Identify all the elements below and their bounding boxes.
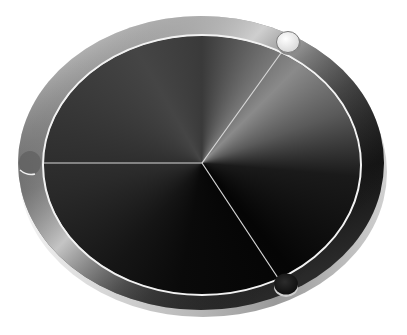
dial-disc bbox=[0, 0, 407, 335]
knob-bottom-right[interactable] bbox=[274, 274, 298, 298]
dial-disc-scene bbox=[0, 0, 407, 335]
knob-left[interactable] bbox=[19, 151, 41, 175]
